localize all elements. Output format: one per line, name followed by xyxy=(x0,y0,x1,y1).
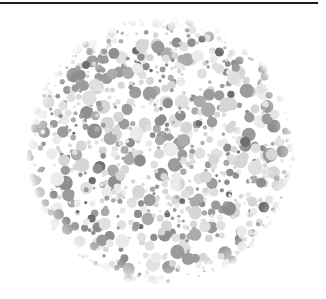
page-canvas xyxy=(0,0,326,299)
ishihara-plate-svg xyxy=(0,8,326,299)
plate-rim-fade xyxy=(27,17,295,285)
ishihara-plate-figure xyxy=(0,8,326,299)
horizontal-rule xyxy=(0,2,318,4)
